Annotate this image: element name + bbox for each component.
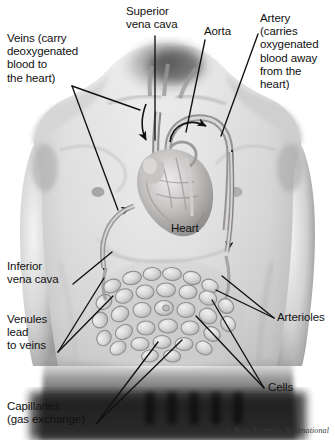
label-heart: Heart [171,222,199,235]
copyright-notice: © Body Scientific International [225,426,329,435]
label-cells: Cells [268,381,293,394]
label-capillaries: Capillaries (gas exchange) [7,400,85,426]
label-venules: Venules lead to veins [7,313,47,353]
label-veins: Veins (carry deoxygenated blood to the h… [7,32,78,85]
label-arterioles: Arterioles [277,311,325,324]
label-aorta: Aorta [204,25,231,38]
label-artery: Artery (carries oxygenated blood away fr… [260,12,318,91]
label-inferior-vena-cava: Inferior vena cava [7,260,59,286]
anatomy-figure: Veins (carry deoxygenated blood to the h… [0,0,335,440]
label-superior-vena-cava: Superior vena cava [126,5,178,31]
